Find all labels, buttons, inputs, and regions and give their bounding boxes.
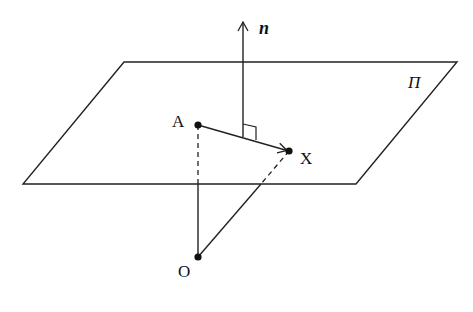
label-a: A [172,112,185,131]
plane-diagram: n Π A X O [0,0,473,312]
label-n: n [259,18,269,38]
label-x: X [300,149,312,168]
point-x [285,147,292,154]
label-o: O [178,262,190,281]
point-o [194,253,201,260]
plane-pi [23,62,457,184]
right-angle-marker [243,124,256,140]
segment-o-x-solid [198,184,261,257]
point-a [194,121,201,128]
segment-o-x-dashed [261,151,289,184]
label-pi: Π [407,73,422,92]
